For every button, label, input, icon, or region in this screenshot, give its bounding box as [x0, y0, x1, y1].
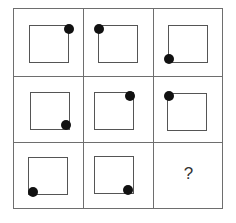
dot-bottom-left	[28, 187, 38, 197]
dot-top-right	[125, 91, 135, 101]
dot-top-left	[94, 24, 104, 34]
puzzle-cell-r2c2	[84, 77, 153, 142]
dot-top-left	[164, 91, 174, 101]
square-shape	[168, 25, 208, 63]
square-shape	[98, 25, 138, 63]
puzzle-cell-r2c1	[14, 77, 83, 142]
puzzle-cell-r3c2	[84, 143, 153, 209]
puzzle-cell-r1c2	[84, 9, 153, 76]
puzzle-grid: ?	[13, 8, 223, 209]
question-mark: ?	[154, 164, 223, 184]
dot-bottom-left	[164, 54, 174, 64]
puzzle-cell-r2c3	[154, 77, 223, 142]
puzzle-cell-r1c1	[14, 9, 83, 76]
dot-bottom-right	[123, 185, 133, 195]
puzzle-cell-r1c3	[154, 9, 223, 76]
puzzle-cell-r3c1	[14, 143, 83, 209]
puzzle-cell-r3c3-missing: ?	[154, 143, 223, 209]
dot-bottom-right	[61, 120, 71, 130]
dot-top-right	[64, 24, 74, 34]
square-shape	[29, 25, 69, 63]
